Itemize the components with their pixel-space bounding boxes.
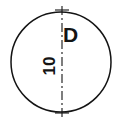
engineering-drawing-canvas: D 10	[0, 0, 120, 124]
hole-outline-circle	[11, 12, 111, 112]
depth-label-text: 10	[41, 57, 58, 76]
drawing-vector-layer	[0, 0, 120, 124]
diameter-label: D	[63, 24, 78, 45]
depth-label: 10	[41, 51, 57, 81]
